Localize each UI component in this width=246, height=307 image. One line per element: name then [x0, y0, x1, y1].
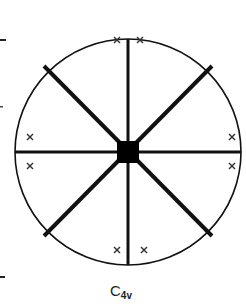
point-group-subscript: 4v: [121, 290, 132, 301]
stereogram-svg: [0, 0, 246, 307]
edge-ticks: [0, 39, 6, 278]
point-group-label: C4v: [110, 282, 132, 301]
edge-tick: [0, 39, 6, 41]
fourfold-axis-square-icon: [117, 141, 139, 163]
edge-tick: [0, 276, 5, 278]
stereogram-diagram: C4v: [0, 0, 246, 307]
edge-tick: [0, 106, 3, 108]
point-group-main: C: [110, 282, 121, 299]
